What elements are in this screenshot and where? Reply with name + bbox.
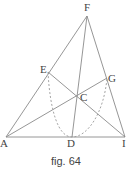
label-E: E xyxy=(40,63,47,75)
line-AG xyxy=(6,78,107,137)
label-G: G xyxy=(108,72,116,84)
dashed-curve xyxy=(48,72,107,137)
figure-caption: fig. 64 xyxy=(51,155,81,167)
label-A: A xyxy=(0,137,8,149)
label-C: C xyxy=(80,91,87,103)
geometry-figure: F E G C A D I fig. 64 xyxy=(0,0,128,169)
line-FD xyxy=(72,16,87,137)
label-I: I xyxy=(122,137,126,149)
line-FI xyxy=(87,16,125,137)
line-FA xyxy=(6,16,87,137)
label-F: F xyxy=(84,1,90,13)
label-D: D xyxy=(67,137,75,149)
